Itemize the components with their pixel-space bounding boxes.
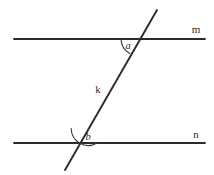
angle-a-label: a: [125, 40, 130, 51]
geometry-diagram-canvas: m n k a b: [0, 0, 214, 175]
line-n-label: n: [193, 128, 199, 140]
line-k-transversal: [65, 10, 157, 170]
line-k-label: k: [95, 83, 101, 95]
angle-b-label: b: [85, 131, 90, 142]
geometry-figure: m n k a b: [0, 0, 214, 175]
line-m-label: m: [192, 23, 201, 35]
